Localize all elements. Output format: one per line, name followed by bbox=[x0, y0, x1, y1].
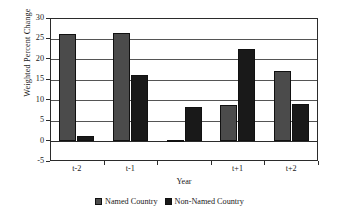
y-axis-tickmark bbox=[46, 58, 50, 59]
x-axis-tickmark bbox=[318, 161, 319, 165]
y-axis-tickmark bbox=[46, 140, 50, 141]
legend-item: Named Country bbox=[95, 197, 158, 206]
legend-label: Non-Named Country bbox=[175, 197, 244, 206]
chart-legend: Named CountryNon-Named Country bbox=[0, 197, 339, 206]
legend-swatch-icon bbox=[165, 198, 172, 205]
bar-chart: Weighted Percent Change Year Named Count… bbox=[0, 0, 339, 215]
x-axis-tick-label: t+1 bbox=[218, 164, 258, 173]
y-axis-tick-label: 10 bbox=[22, 96, 44, 104]
y-axis-tick-label: 25 bbox=[22, 34, 44, 42]
gridline bbox=[51, 80, 317, 81]
x-axis-tick-label: t-1 bbox=[110, 164, 150, 173]
y-axis-tick-label: 5 bbox=[22, 116, 44, 124]
x-axis-title: Year bbox=[50, 177, 318, 186]
y-axis-tickmark bbox=[46, 120, 50, 121]
y-axis-tick-label: 0 bbox=[22, 137, 44, 145]
y-axis-tick-label: 15 bbox=[22, 75, 44, 83]
x-axis-tickmark bbox=[264, 161, 265, 165]
x-axis-tickmark bbox=[104, 161, 105, 165]
gridline bbox=[51, 39, 317, 40]
y-axis-tickmark bbox=[46, 99, 50, 100]
y-axis-tickmark bbox=[46, 161, 50, 162]
legend-item: Non-Named Country bbox=[165, 197, 244, 206]
x-axis-tick-label: t-2 bbox=[57, 164, 97, 173]
legend-swatch-icon bbox=[95, 198, 102, 205]
legend-label: Named Country bbox=[105, 197, 158, 206]
gridline bbox=[51, 59, 317, 60]
x-axis-tick-label: t+2 bbox=[271, 164, 311, 173]
y-axis-tick-label: 20 bbox=[22, 55, 44, 63]
zero-line bbox=[51, 141, 317, 142]
x-axis-tickmark bbox=[157, 161, 158, 165]
x-axis-tickmark bbox=[211, 161, 212, 165]
y-axis-tickmark bbox=[46, 38, 50, 39]
y-axis-tick-label: -5 bbox=[22, 157, 44, 165]
y-axis-tick-label: 30 bbox=[22, 14, 44, 22]
y-axis-tickmark bbox=[46, 79, 50, 80]
gridline bbox=[51, 100, 317, 101]
y-axis-tickmark bbox=[46, 18, 50, 19]
gridline bbox=[51, 121, 317, 122]
plot-area bbox=[50, 18, 318, 161]
